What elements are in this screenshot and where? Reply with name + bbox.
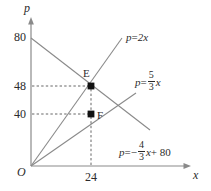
plot-canvas xyxy=(0,0,211,191)
supply-demand-graph-figure: p x O 80 48 40 24 E F p=2x p=53x p=−43x+… xyxy=(0,0,211,191)
equation-supply-shallow-equals: = xyxy=(141,76,147,88)
y-tick-label-80: 80 xyxy=(4,31,26,43)
x-tick-label-24: 24 xyxy=(79,171,103,183)
fraction-five-thirds: 53 xyxy=(148,70,155,92)
equation-demand: p=−43x+ 80 xyxy=(119,140,171,162)
fraction-four-thirds: 43 xyxy=(138,140,145,162)
equation-demand-intercept: + 80 xyxy=(151,146,171,158)
fraction-denominator: 3 xyxy=(138,152,145,162)
fraction-denominator: 3 xyxy=(148,82,155,92)
x-axis-label: x xyxy=(193,169,198,181)
point-marker-e xyxy=(88,83,95,90)
y-tick-label-40: 40 xyxy=(4,108,26,120)
equation-supply-steep: p=2x xyxy=(126,32,148,43)
point-label-f: F xyxy=(97,110,103,121)
point-label-e: E xyxy=(83,68,90,79)
y-axis-label: p xyxy=(24,2,30,14)
equation-demand-sign: − xyxy=(131,146,137,158)
origin-label: O xyxy=(17,166,26,178)
y-tick-label-48: 48 xyxy=(4,80,26,92)
equation-supply-shallow-var: x xyxy=(156,76,161,88)
point-marker-f xyxy=(88,111,95,118)
line-p-equals-2x xyxy=(31,38,122,166)
fraction-numerator: 4 xyxy=(138,140,145,150)
equation-supply-shallow: p=53x xyxy=(135,70,161,92)
x-axis xyxy=(31,163,191,169)
fraction-numerator: 5 xyxy=(148,70,155,80)
equation-supply-steep-rhs: 2x xyxy=(138,31,148,43)
